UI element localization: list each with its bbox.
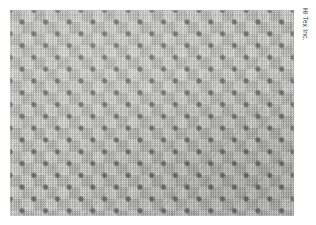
company-caption: Hi Tex Inc. (300, 8, 310, 54)
fabric-swatch-page: Hi Tex Inc. (0, 0, 316, 225)
fabric-swatch-edge (10, 10, 294, 216)
fabric-swatch-image (10, 10, 294, 216)
